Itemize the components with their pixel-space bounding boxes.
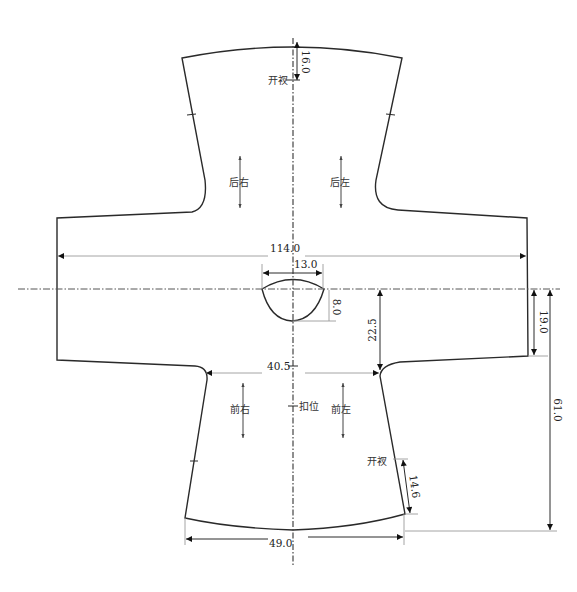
piece-label-front-left: 前左	[331, 403, 351, 415]
chest-dim-value: 40.5	[267, 360, 290, 372]
piece-label-back-right: 后右	[229, 176, 249, 188]
underarm-depth-dim-value: 22.5	[366, 318, 378, 341]
neck-depth-dim-value: 8.0	[331, 299, 343, 316]
sleeve-span-dim-value: 114.0	[270, 242, 300, 254]
side-slit-dim-value: 14.6	[407, 474, 422, 499]
notch-mark	[187, 114, 196, 115]
side-slit-label: 开衩	[367, 456, 387, 467]
notch-mark	[386, 114, 395, 115]
piece-label-back-left: 后左	[330, 176, 350, 188]
back-slit-label: 开衩	[268, 75, 288, 86]
front-length-dim-value: 61.0	[552, 398, 564, 421]
neck-width-dim-value: 13.0	[294, 258, 317, 270]
button-position-label: 扣位	[299, 400, 319, 412]
sleeve-width-dim-value: 19.0	[538, 310, 550, 333]
hem-dim-value: 49.0	[269, 537, 292, 549]
piece-label-front-right: 前右	[230, 403, 250, 415]
garment-pattern-diagram: 16.0 开衩 后右 后左 114.0 13.0 8.0 22.5 19.0 6…	[0, 0, 577, 592]
back-slit-dim-value: 16.0	[300, 50, 312, 73]
